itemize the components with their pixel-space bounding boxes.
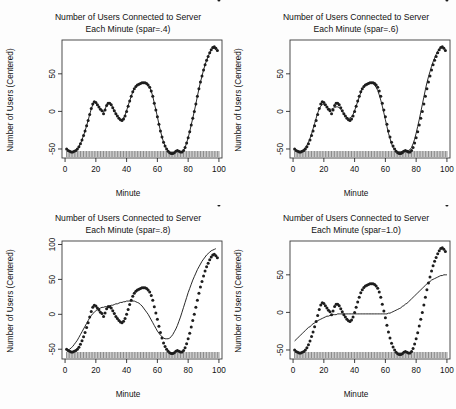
data-point [384,115,387,118]
data-point [184,146,187,149]
data-point [193,313,196,316]
x-tick-label: 60 [381,366,391,375]
data-point [84,129,87,132]
data-point [85,326,88,329]
data-point [79,142,82,145]
panel-title-line1: Number of Users Connected to Server [283,12,429,22]
data-point [355,306,358,309]
data-point [350,318,353,321]
data-point [196,299,199,302]
data-point [82,335,85,338]
y-tick-label: 100 [48,237,57,251]
x-tick-label: 0 [291,366,296,375]
data-point [201,280,204,283]
data-point [131,295,134,298]
data-point [313,325,316,328]
data-point [110,103,113,106]
data-point [444,250,447,253]
data-point [124,317,127,320]
panel-spar-08: Number of Users Connected to Server Each… [0,205,228,409]
data-point [384,316,387,319]
x-tick-label: 20 [319,165,329,174]
data-point [130,95,133,98]
data-point [111,309,114,312]
data-point [202,69,205,72]
data-point [416,130,419,133]
y-axis-label: Number of Users (Centered) [6,249,15,353]
data-point [191,117,194,120]
data-point [205,265,208,268]
x-tick-label: 40 [350,165,360,174]
data-point [79,343,82,346]
data-point [350,117,353,120]
panel-title-line1: Number of Users Connected to Server [283,213,429,223]
data-point [430,270,433,273]
data-point [90,107,93,110]
x-tick-label: 40 [122,165,132,174]
data-point [194,306,197,309]
data-point [387,129,390,132]
data-point [338,304,341,307]
data-point [422,303,425,306]
panel-spar-10: Number of Users Connected to Server Each… [228,205,456,409]
data-point [113,109,116,112]
y-tick-label: 50 [48,274,57,284]
data-point [379,296,382,299]
y-axis-label: Number of Users (Centered) [6,48,15,152]
data-point [330,313,333,316]
data-point [77,346,80,349]
data-point [154,311,157,314]
data-point [217,205,220,207]
panel-title-line2: Each Minute (spar=1.0) [311,225,401,235]
data-point [425,87,428,90]
data-point [153,102,156,105]
data-point [318,308,321,311]
data-point [161,337,164,340]
data-point [199,286,202,289]
data-point [148,290,151,293]
data-point [187,136,190,139]
data-point [352,315,355,318]
data-point [216,49,219,52]
data-point [358,95,361,98]
data-point [130,299,133,302]
data-point [389,336,392,339]
data-point [385,123,388,126]
x-tick-label: 20 [91,366,101,375]
x-tick-label: 80 [184,366,194,375]
x-tick-label: 60 [381,165,391,174]
data-point [185,342,188,345]
data-point [436,252,439,255]
data-point [156,318,159,321]
data-point [191,319,194,322]
data-point [113,312,116,315]
data-point [425,288,428,291]
data-point [385,324,388,327]
data-point [182,149,185,152]
y-tick-label: 0 [276,109,285,114]
data-point [429,276,432,279]
x-axis-label: Minute [116,390,141,399]
data-point [330,112,333,115]
data-point [151,95,154,98]
plot-border [290,40,450,158]
data-point [312,129,315,132]
data-point [157,123,160,126]
y-tick-label: 0 [48,312,57,317]
data-point [217,0,220,2]
data-point [124,114,127,117]
data-point [418,123,421,126]
data-point [122,117,125,120]
data-point [313,124,316,127]
data-point [162,141,165,144]
data-point [190,325,193,328]
data-point [338,103,341,106]
data-point [421,311,424,314]
data-point [419,117,422,120]
data-point [77,145,80,148]
data-point [201,75,204,78]
data-point [197,87,200,90]
data-point [444,49,447,52]
data-point [188,332,191,335]
data-point [122,320,125,323]
